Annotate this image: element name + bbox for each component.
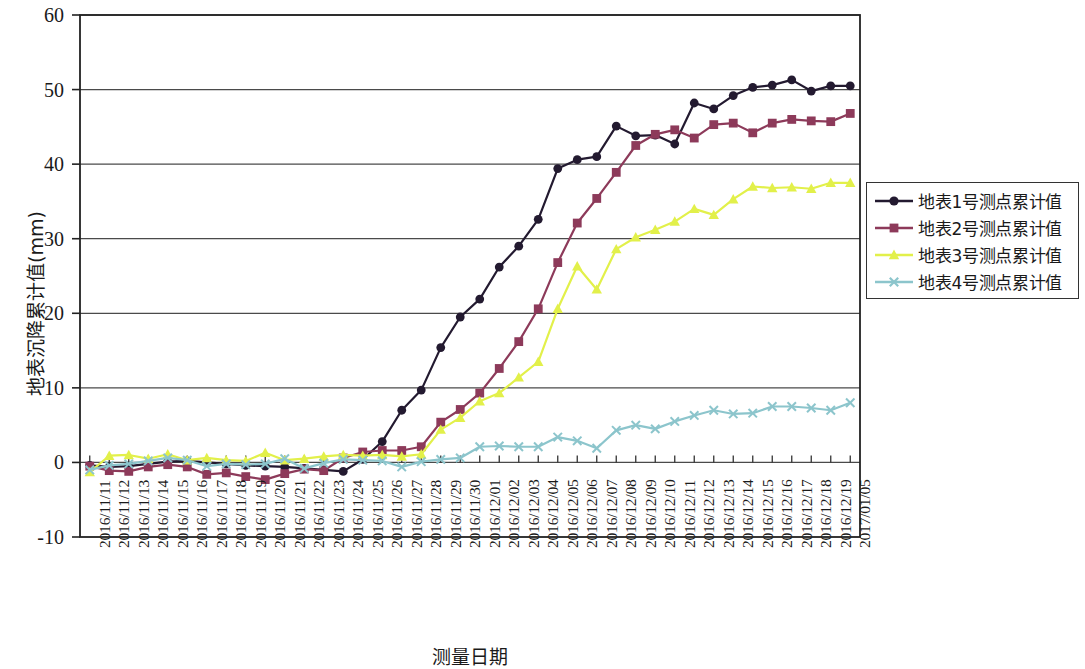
x-tick-label: 2016/11/30 — [466, 480, 484, 548]
data-point — [768, 81, 777, 90]
series-line — [90, 113, 851, 479]
data-point — [280, 469, 289, 478]
data-point — [826, 117, 835, 126]
data-point — [397, 406, 406, 415]
x-tick-label: 2016/12/12 — [700, 479, 718, 548]
data-point — [612, 122, 621, 131]
legend-swatch-series-3 — [873, 247, 915, 263]
data-point — [573, 219, 582, 228]
legend-swatch-series-4 — [873, 274, 915, 290]
data-point — [787, 115, 796, 124]
data-point — [651, 130, 660, 139]
data-point — [495, 263, 504, 272]
series-line — [90, 80, 851, 472]
y-tick-label: 30 — [8, 229, 64, 249]
x-tick-label: 2016/11/15 — [174, 480, 192, 548]
x-tick-label: 2016/11/20 — [271, 480, 289, 548]
data-point — [611, 244, 621, 253]
x-tick-label: 2016/11/13 — [135, 480, 153, 548]
data-point — [690, 99, 699, 108]
legend-label-series-2: 地表2号测点累计值 — [915, 215, 1062, 240]
y-tick-label: 10 — [8, 378, 64, 398]
x-tick-label: 2016/11/22 — [310, 480, 328, 548]
series-2 — [85, 109, 854, 484]
data-point — [612, 168, 621, 177]
chart-legend: 地表1号测点累计值 地表2号测点累计值 地表3号测点累计值 — [866, 182, 1079, 299]
x-tick-label: 2016/11/14 — [154, 480, 172, 548]
legend-swatch-series-1 — [873, 193, 915, 209]
y-tick-label: -10 — [8, 527, 64, 547]
x-tick-label: 2016/12/03 — [525, 479, 543, 548]
data-point — [631, 131, 640, 140]
data-point — [670, 125, 679, 134]
data-point — [748, 128, 757, 137]
x-tick-label: 2016/11/12 — [115, 480, 133, 548]
x-tick-label: 2016/11/27 — [408, 480, 426, 548]
data-point — [748, 83, 757, 92]
data-point — [378, 437, 387, 446]
legend-item-series-2: 地表2号测点累计值 — [867, 214, 1078, 241]
data-point — [689, 204, 699, 213]
legend-label-series-1: 地表1号测点累计值 — [915, 188, 1062, 213]
x-tick-label: 2016/12/16 — [778, 479, 796, 548]
y-tick-label: 40 — [8, 154, 64, 174]
series-line — [90, 183, 851, 472]
x-tick-label: 2016/11/16 — [193, 480, 211, 548]
x-tick-label: 2016/11/11 — [96, 481, 114, 548]
legend-label-series-4: 地表4号测点累计值 — [915, 269, 1062, 294]
data-point — [456, 313, 465, 322]
y-tick-label: 50 — [8, 80, 64, 100]
data-point — [495, 364, 504, 373]
x-tick-label: 2016/11/18 — [232, 480, 250, 548]
data-point — [436, 343, 445, 352]
legend-item-series-3: 地表3号测点累计值 — [867, 241, 1078, 268]
x-tick-label: 2016/12/10 — [661, 479, 679, 548]
data-point — [417, 386, 426, 395]
x-tick-label: 2016/12/14 — [739, 479, 757, 548]
data-point — [826, 81, 835, 90]
y-tick-label: 60 — [8, 5, 64, 25]
x-tick-label: 2016/12/11 — [681, 480, 699, 548]
data-point — [670, 140, 679, 149]
data-point — [573, 155, 582, 164]
data-point — [534, 304, 543, 313]
x-tick-label: 2016/12/02 — [505, 479, 523, 548]
data-point — [534, 215, 543, 224]
x-tick-label: 2017/01/05 — [856, 479, 874, 548]
data-point — [222, 468, 231, 477]
x-tick-label: 2016/11/19 — [252, 480, 270, 548]
x-tick-label: 2016/12/06 — [583, 479, 601, 548]
series-1 — [85, 75, 854, 475]
x-tick-label: 2016/11/25 — [369, 480, 387, 548]
x-tick-label: 2016/12/08 — [622, 479, 640, 548]
data-point — [553, 258, 562, 267]
x-axis-title: 测量日期 — [80, 642, 860, 669]
x-tick-label: 2016/12/01 — [486, 479, 504, 548]
data-point — [260, 448, 270, 457]
data-point — [202, 470, 211, 479]
data-point — [807, 116, 816, 125]
legend-label-series-3: 地表3号测点累计值 — [915, 242, 1062, 267]
x-tick-label: 2016/11/28 — [427, 480, 445, 548]
x-tick-label: 2016/12/13 — [720, 479, 738, 548]
data-point — [475, 295, 484, 304]
data-point — [592, 152, 601, 161]
x-tick-label: 2016/12/19 — [837, 479, 855, 548]
x-tick-label: 2016/11/26 — [388, 480, 406, 548]
data-point — [514, 337, 523, 346]
legend-item-series-1: 地表1号测点累计值 — [867, 187, 1078, 214]
x-tick-label: 2016/11/29 — [447, 480, 465, 548]
y-tick-label: 0 — [8, 452, 64, 472]
x-tick-label: 2016/12/04 — [544, 479, 562, 548]
series-3 — [85, 178, 856, 477]
data-point — [339, 467, 348, 476]
y-tick-label: 20 — [8, 303, 64, 323]
x-tick-label: 2016/11/24 — [349, 480, 367, 548]
data-point — [533, 357, 543, 366]
legend-item-series-4: 地表4号测点累计值 — [867, 268, 1078, 295]
x-tick-label: 2016/11/17 — [213, 480, 231, 548]
data-point — [592, 194, 601, 203]
data-point — [670, 216, 680, 225]
